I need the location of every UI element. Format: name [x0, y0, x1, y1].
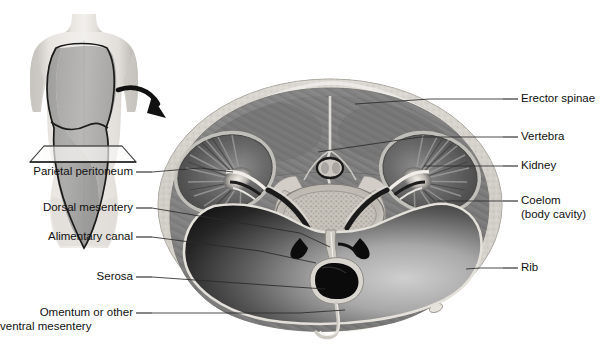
cutting-plane [30, 146, 136, 162]
ventral-mesentery-highlight [320, 304, 339, 335]
erector-spinae-texture [197, 92, 465, 190]
cross-section-illustration [0, 0, 613, 361]
renal-pelvis-left [233, 188, 263, 206]
aorta [352, 238, 370, 259]
erector-spinae-muscle-right [338, 102, 446, 162]
spinal-canal [317, 158, 343, 178]
label-omentum-ventral-mesentery-line2: ventral mesentery [0, 320, 133, 334]
rib-left-upper [173, 189, 183, 203]
leader-line-omentum-ventral-mesentery [152, 310, 345, 313]
label-dorsal-mesentery-line1: Dorsal mesentery [43, 201, 133, 213]
thoracic-cavity-shade [56, 46, 116, 246]
great-vessels-group [290, 238, 369, 259]
body-wall [158, 79, 502, 331]
inferior-vena-cava [290, 238, 308, 259]
vertebral-cortical-bone [276, 184, 384, 242]
leader-line-rib [466, 268, 503, 269]
label-kidney: Kidney [521, 159, 556, 173]
fascia-line-left [304, 150, 330, 180]
label-serosa: Serosa [0, 270, 133, 284]
leader-line-serosa [152, 277, 325, 289]
alimentary-canal [310, 258, 363, 304]
label-alimentary-canal: Alimentary canal [0, 230, 133, 244]
parietal-peritoneum-lining [184, 204, 482, 324]
leader-lines-right [318, 99, 518, 269]
transverse-process-left [272, 176, 306, 200]
renal-artery-right [374, 182, 425, 214]
neck [64, 14, 104, 33]
labels-right-column: Erector spinaeVertebraKidneyCoelom(body … [0, 0, 613, 361]
cauda-equina-left [321, 162, 329, 174]
leader-line-group [0, 0, 613, 361]
arrow-head [147, 96, 166, 118]
spinal-canal-outline [317, 158, 343, 178]
rib-right-lower [428, 302, 444, 315]
anatomy-figure: Parietal peritoneumDorsal mesenteryAlime… [0, 0, 613, 361]
mesenteric-vessel [338, 244, 358, 256]
renal-vein-left [226, 172, 280, 206]
renal-columns-right [414, 138, 467, 209]
torso-body [30, 14, 138, 248]
lamina-left [274, 190, 300, 222]
skin-surface [158, 79, 502, 331]
diaphragm-line [51, 122, 108, 129]
lamina-right [360, 190, 386, 222]
rib-left-lower [218, 302, 234, 315]
label-kidney-line1: Kidney [521, 159, 556, 171]
label-omentum-ventral-mesentery-line1: Omentum or other [40, 306, 133, 318]
vertebral-arch-group [272, 176, 388, 222]
labels-left-column: Parietal peritoneumDorsal mesenteryAlime… [0, 0, 613, 361]
alimentary-canal-lumen [315, 263, 358, 299]
serosa [310, 258, 363, 304]
erector-spinae-muscle-mass [197, 92, 465, 190]
arm-left [30, 50, 44, 112]
renal-vessel-sheath-right [346, 186, 387, 222]
abdominal-wall-muscle [170, 88, 489, 331]
kidney-right-capsule [373, 123, 487, 223]
label-parietal-peritoneum: Parietal peritoneum [0, 165, 133, 179]
arrow-shaft [118, 88, 158, 104]
perirenal-fat-right [368, 118, 492, 228]
spinous-process-midline [326, 92, 330, 186]
body-cavity-highlight [47, 44, 116, 249]
renal-columns-left [188, 138, 241, 209]
abdominopelvic-cavity-shade [47, 48, 99, 246]
coelom-body-cavity [184, 204, 482, 324]
renal-vein-right [375, 172, 429, 206]
label-coelom-body-cavity-line1: Coelom [521, 194, 561, 206]
kidney-left-capsule [168, 123, 282, 223]
body-cavity-outline [47, 44, 114, 249]
leader-line-parietal-peritoneum [152, 168, 233, 172]
cauda-equina-right [332, 162, 340, 174]
label-vertebra-line1: Vertebra [521, 130, 564, 142]
dorsal-mesentery-sheet [325, 230, 338, 262]
subcutaneous-fat-layer [158, 79, 502, 331]
label-serosa-line1: Serosa [97, 270, 133, 282]
leader-line-alimentary-canal [152, 237, 316, 263]
renal-sinus-right [399, 163, 435, 195]
trabecular-bone [284, 191, 376, 236]
leader-line-vertebra [318, 137, 503, 152]
rib-left [188, 262, 203, 276]
skin-highlight-inferior [205, 282, 458, 330]
parietal-peritoneum-posterior-left [214, 204, 330, 232]
pelvis-shading [51, 196, 116, 246]
transverse-process-right [354, 176, 388, 200]
fascia-line-right [330, 150, 356, 180]
skin-highlight-superior [190, 83, 470, 150]
erector-spinae-group [197, 92, 465, 190]
parietal-peritoneum-posterior-right [330, 204, 436, 232]
medullary-pyramids-right [414, 135, 469, 214]
dorsal-mesentery [325, 230, 338, 262]
label-coelom-body-cavity: Coelom(body cavity) [521, 194, 586, 221]
label-omentum-ventral-mesentery: Omentum or otherventral mesentery [0, 306, 133, 333]
body-wall-musculature [170, 88, 489, 331]
cutting-plane-surface [30, 146, 136, 162]
perirenal-fat-left [163, 118, 287, 228]
dorsal-mesentery-highlight [331, 232, 333, 260]
arm-right [124, 50, 138, 112]
leader-line-erector-spinae [355, 99, 503, 104]
torso-orientation-inset [0, 0, 613, 361]
erector-spinae-muscle-left [214, 102, 322, 162]
renal-vessels-left-extrarenal [268, 190, 308, 228]
